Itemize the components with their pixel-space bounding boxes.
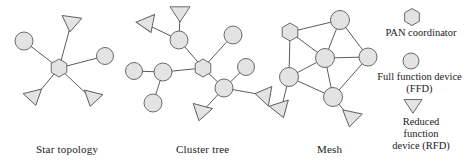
- nodes-layer: [15, 7, 377, 129]
- figure-network-topologies: Star topology Cluster tree Mesh PAN coor…: [0, 0, 468, 165]
- legend-label-full-function-device: Full function device (FFD): [371, 71, 468, 95]
- node-triangle-s5: [81, 90, 103, 109]
- legend-circle-icon: [403, 53, 419, 69]
- caption-star-topology: Star topology: [36, 143, 98, 155]
- node-circle-m1: [331, 11, 350, 30]
- caption-cluster-tree: Cluster tree: [176, 143, 229, 155]
- node-circle-c8: [215, 79, 233, 97]
- legend-triangle-icon: [404, 100, 422, 114]
- legend-label-pan-coordinator: PAN coordinator: [375, 27, 467, 39]
- legend-hexagon-icon: [405, 9, 420, 26]
- node-triangle-c3: [136, 15, 160, 37]
- node-hexagon-c0: [195, 59, 211, 77]
- node-circle-c6: [144, 94, 162, 112]
- node-triangle-m6: [269, 100, 293, 121]
- node-circle-m5: [324, 88, 343, 107]
- node-triangle-c11: [189, 103, 212, 123]
- node-circle-c7: [224, 26, 242, 44]
- node-hexagon-m0: [282, 23, 298, 41]
- caption-mesh: Mesh: [317, 143, 342, 155]
- node-circle-m4: [280, 68, 299, 87]
- node-triangle-c2: [170, 7, 190, 22]
- node-triangle-s3: [60, 15, 82, 33]
- node-circle-c9: [238, 59, 255, 76]
- node-triangle-s4: [23, 89, 45, 108]
- node-circle-c4: [154, 63, 172, 81]
- legend-label-reduced-function-device: Reduced function device (RFD): [377, 116, 465, 152]
- node-circle-c5: [126, 63, 143, 80]
- node-circle-s2: [97, 48, 114, 65]
- node-circle-s1: [15, 32, 33, 50]
- legend-icons-layer: [403, 9, 422, 114]
- node-hexagon-s0: [51, 59, 67, 77]
- node-circle-c1: [170, 31, 188, 49]
- node-triangle-m7: [340, 110, 363, 129]
- node-circle-m2: [316, 49, 335, 68]
- node-circle-m3: [359, 48, 377, 66]
- node-triangle-c10: [253, 84, 271, 106]
